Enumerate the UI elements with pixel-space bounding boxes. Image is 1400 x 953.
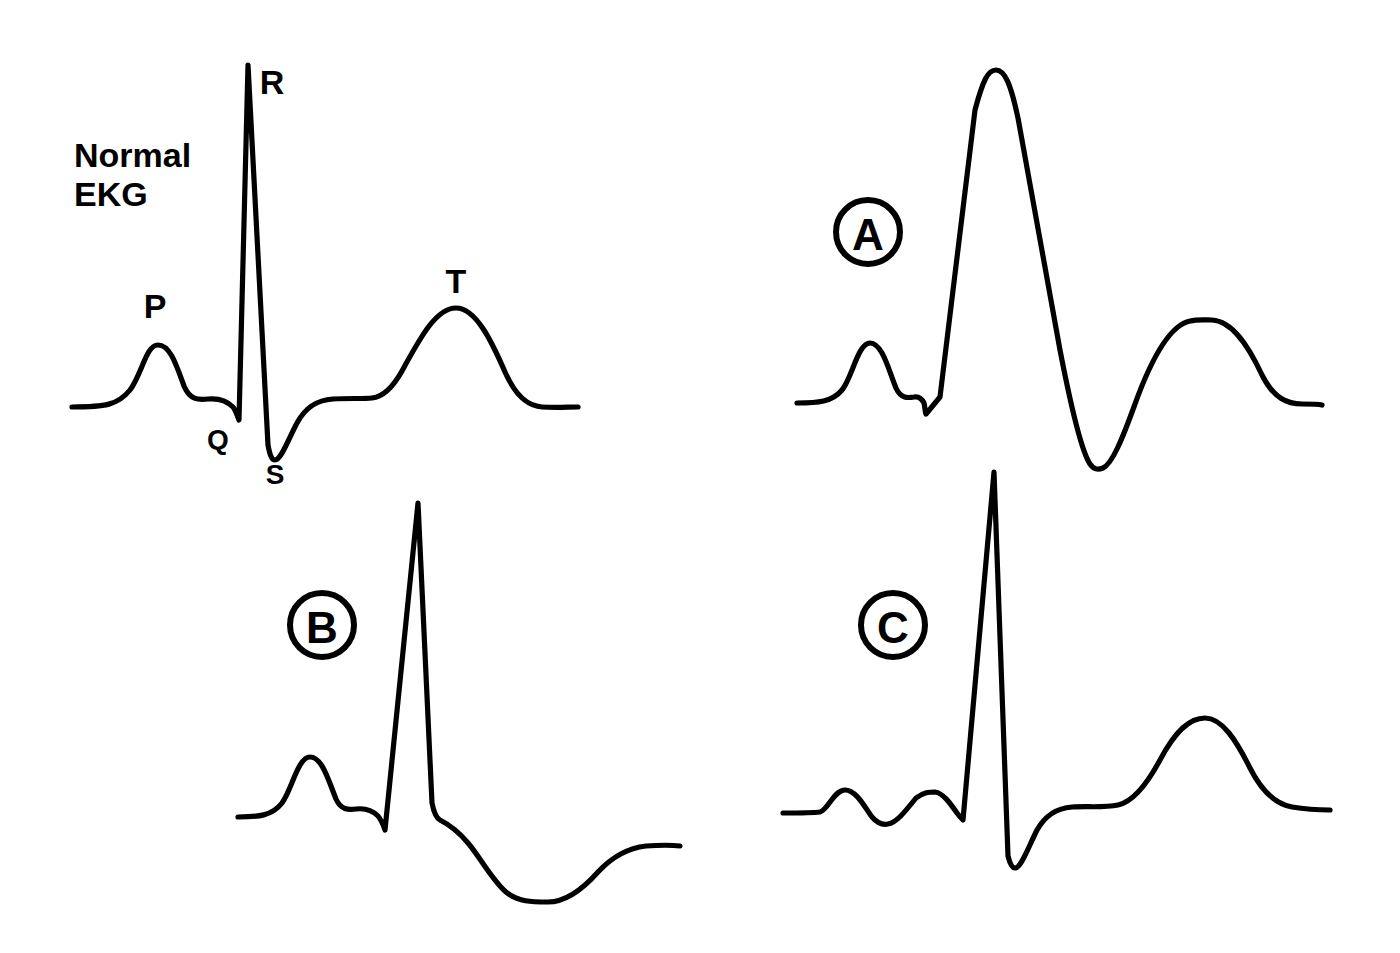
label-r-wave: R (260, 63, 285, 101)
normal-ekg-title-line1: Normal (74, 136, 191, 174)
panel-a: A (797, 70, 1322, 469)
label-p-wave: P (144, 287, 167, 325)
ekg-figure: Normal EKG P Q R S T A B C (0, 0, 1400, 953)
ekg-diagram-canvas: Normal EKG P Q R S T A B C (0, 0, 1400, 953)
panel-c: C (783, 472, 1330, 868)
panel-c-label: C (877, 603, 909, 652)
trace-c (783, 472, 1330, 868)
panel-normal-ekg: Normal EKG P Q R S T (72, 63, 578, 490)
trace-b (238, 503, 680, 902)
panel-b-label: B (306, 603, 338, 652)
panel-b: B (238, 503, 680, 902)
label-t-wave: T (446, 262, 467, 300)
panel-a-label: A (852, 210, 884, 259)
trace-a (797, 70, 1322, 469)
label-q-wave: Q (207, 424, 229, 455)
normal-ekg-title-line2: EKG (74, 175, 148, 213)
label-s-wave: S (266, 459, 285, 490)
trace-normal-ekg (72, 65, 578, 460)
